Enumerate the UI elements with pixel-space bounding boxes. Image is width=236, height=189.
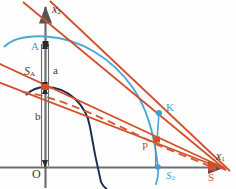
point-marker-S2 [155, 164, 161, 170]
point-label-P: P [142, 141, 148, 152]
point-marker-S [208, 165, 216, 171]
orange-line-through-SA-upper [0, 63, 224, 168]
axis-label-x1: x1 [216, 150, 225, 163]
orange-line-group [0, 1, 230, 171]
point-label-SA: SA [24, 65, 35, 78]
orange-dashed-line [22, 92, 212, 167]
axis-label-x1-sub: 1 [221, 155, 225, 163]
point-label-A: A [31, 41, 39, 52]
point-label-SA-sub: A [30, 70, 35, 78]
orange-line-through-A [23, 2, 226, 170]
orange-line-through-K [50, 1, 230, 171]
dimension-label-b: b [35, 111, 41, 122]
point-marker-A [43, 41, 49, 47]
point-marker-P [153, 137, 160, 143]
point-label-K: K [166, 102, 174, 113]
point-label-S2: S2 [166, 170, 175, 182]
geometry-figure: x2 x1 O A SA a b K P S2 S [0, 0, 236, 189]
orange-line-through-P [0, 82, 226, 170]
axis-label-x2-sub: 2 [57, 8, 61, 16]
point-marker-K [156, 110, 162, 116]
diagram-canvas [0, 0, 236, 189]
dimension-label-a: a [53, 65, 58, 76]
ellipse-arc-tail [156, 168, 159, 185]
point-marker-SA [41, 84, 49, 90]
point-label-S: S [208, 172, 214, 183]
axis-label-x2: x2 [52, 3, 61, 16]
axis-group [0, 7, 224, 188]
origin-label: O [32, 168, 41, 180]
point-label-S2-sub: 2 [172, 174, 176, 182]
